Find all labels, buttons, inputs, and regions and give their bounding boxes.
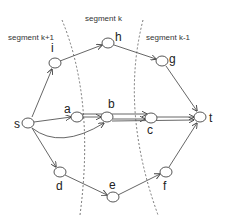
- edge-f-t: [169, 123, 197, 167]
- edge-s-a: [34, 117, 71, 122]
- segment-label-k-plus-1: segment k+1: [8, 33, 55, 42]
- node-label-e: e: [109, 178, 116, 192]
- edge-s-d: [32, 128, 56, 167]
- node-s: [22, 118, 34, 128]
- edge-s-b: [32, 123, 104, 138]
- node-f: [160, 167, 172, 177]
- edge-h-g: [114, 45, 156, 59]
- node-label-f: f: [163, 179, 167, 193]
- edge-i-h: [60, 45, 102, 61]
- node-label-a: a: [64, 102, 71, 116]
- node-d: [54, 167, 66, 177]
- node-label-i: i: [51, 41, 54, 55]
- node-e: [107, 192, 119, 202]
- node-c: [145, 113, 157, 123]
- node-t: [194, 112, 206, 122]
- node-label-s: s: [14, 117, 20, 131]
- node-label-g: g: [169, 52, 176, 66]
- node-label-d: d: [56, 179, 63, 193]
- node-label-c: c: [147, 123, 153, 137]
- node-i: [49, 58, 61, 68]
- node-h: [102, 38, 114, 48]
- edge-d-e: [65, 175, 107, 195]
- segmented-graph-diagram: segment k+1 segment k segment k-1 s i h …: [0, 0, 227, 215]
- node-a: [71, 112, 83, 122]
- node-label-b: b: [108, 97, 115, 111]
- node-label-t: t: [209, 111, 213, 125]
- edge-s-i: [32, 69, 52, 117]
- segment-label-k-minus-1: segment k-1: [146, 33, 191, 42]
- node-b: [101, 112, 113, 122]
- node-g: [156, 56, 168, 66]
- edge-g-t: [166, 66, 197, 111]
- node-label-h: h: [115, 30, 122, 44]
- edge-e-f: [118, 174, 160, 195]
- segment-label-k: segment k: [85, 14, 123, 23]
